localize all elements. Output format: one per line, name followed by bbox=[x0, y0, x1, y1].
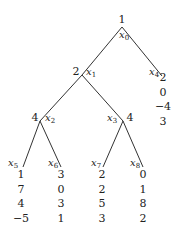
node-x3-label: x3 bbox=[107, 113, 117, 126]
node-x1-label: x1 bbox=[86, 67, 96, 80]
payoff-x6: 3 0 3 1 bbox=[51, 168, 71, 226]
payoff-x7: 2 2 5 3 bbox=[92, 168, 112, 226]
node-x2-label: x2 bbox=[45, 113, 55, 126]
payoff-x4: 2 0 −4 3 bbox=[153, 71, 173, 129]
edge-x3-x7 bbox=[103, 121, 123, 167]
payoff-x8: 0 1 8 2 bbox=[133, 168, 153, 226]
node-x0-label: x0 bbox=[119, 30, 129, 43]
node-x3-player: 4 bbox=[122, 112, 138, 123]
edge-x2-x5 bbox=[23, 121, 40, 167]
node-x1-player: 2 bbox=[68, 66, 84, 77]
node-x2-player: 4 bbox=[27, 112, 43, 123]
node-x0-player: 1 bbox=[114, 14, 130, 25]
payoff-x5: 1 7 4 −5 bbox=[11, 168, 31, 226]
